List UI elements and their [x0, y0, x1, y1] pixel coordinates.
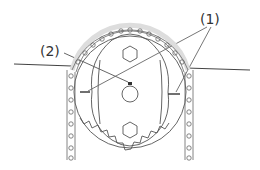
leader-line-1b [176, 27, 211, 92]
cam-plate [91, 34, 168, 146]
reference-line-right [186, 68, 250, 70]
reference-line-left [14, 64, 72, 66]
callout-label-1: (1) [200, 12, 220, 26]
sprocket-drawing [0, 0, 260, 170]
sprocket-diagram: (1) (2) [0, 0, 260, 170]
bolt-top-icon [123, 46, 137, 62]
sprocket-teeth [74, 36, 186, 150]
bolt-bottom-icon [123, 122, 137, 138]
key-mark-icon [128, 82, 132, 85]
cam-inner-edge-right [160, 60, 162, 124]
callout-label-2: (2) [40, 44, 60, 58]
hub-bore [122, 86, 138, 102]
